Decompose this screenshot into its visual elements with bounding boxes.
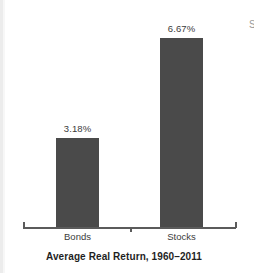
plot-area: 3.18% 6.67% Bonds Stocks Average Real Re… xyxy=(0,0,259,273)
chart-caption: Average Real Return, 1960–2011 xyxy=(0,251,248,262)
clipped-edge-glyph: S xyxy=(249,18,254,32)
x-axis-label-bonds: Bonds xyxy=(46,231,109,242)
x-axis-label-stocks: Stocks xyxy=(150,231,213,242)
x-axis-tick-middle xyxy=(130,228,132,232)
bar-chart-figure: 3.18% 6.67% Bonds Stocks Average Real Re… xyxy=(0,0,259,273)
x-axis-tick-left xyxy=(23,222,25,228)
bar-value-bonds: 3.18% xyxy=(46,123,109,134)
bar-stocks xyxy=(160,38,203,227)
x-axis-tick-right xyxy=(235,222,237,228)
bar-value-stocks: 6.67% xyxy=(150,23,213,34)
bar-bonds xyxy=(56,138,99,227)
